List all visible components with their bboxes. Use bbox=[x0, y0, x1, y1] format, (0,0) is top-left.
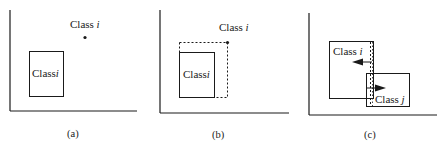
class-j-label: Class j bbox=[375, 93, 405, 105]
class-i-label: Class i bbox=[333, 45, 363, 57]
caption-b: (b) bbox=[212, 129, 225, 141]
point-label: Class i bbox=[219, 21, 249, 33]
data-point bbox=[226, 41, 229, 44]
point-label: Class i bbox=[70, 18, 100, 30]
data-point bbox=[83, 36, 86, 39]
arrow-left-icon bbox=[352, 59, 372, 66]
arrow-right-icon bbox=[367, 85, 386, 92]
caption-c: (c) bbox=[364, 129, 376, 141]
panel-b: Classi Class i (b) bbox=[160, 10, 289, 141]
figure: Classi Class i (a) Classi Class i (b) bbox=[0, 0, 443, 148]
box-label: Classi bbox=[183, 68, 210, 80]
caption-a: (a) bbox=[67, 128, 79, 140]
panel-c: Class i Class j (c) bbox=[309, 13, 437, 141]
panel-a: Classi Class i (a) bbox=[10, 10, 137, 140]
box-label: Classi bbox=[32, 67, 59, 79]
